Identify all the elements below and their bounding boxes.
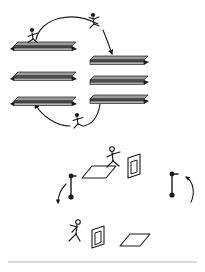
right-bar-2	[90, 76, 149, 85]
right-bar-3	[90, 95, 149, 104]
left-bar-3	[10, 97, 77, 106]
figure-jumper-upper-slab	[107, 147, 120, 167]
figure-runner-lower-slab	[69, 220, 80, 241]
left-bar-2	[10, 72, 77, 81]
pin-marker-left	[68, 174, 76, 200]
flat-slab-lower-right	[120, 234, 150, 246]
right-bar-stack	[90, 56, 149, 104]
figure-jumper-bottom-arc	[73, 113, 83, 128]
scene-bottom-slab-marker-cycle	[58, 147, 193, 248]
flat-slab-upper-left	[82, 166, 116, 178]
upright-panel-upper-right	[128, 154, 140, 178]
upright-panel-lower-middle	[92, 226, 104, 248]
arrow-curve-right-up	[186, 177, 193, 202]
pin-marker-right	[169, 172, 178, 198]
scene-top-bar-stack-cycle	[10, 13, 149, 128]
arc-right-to-left-bottom	[35, 104, 100, 126]
diagram-svg	[0, 0, 205, 272]
right-bar-1	[90, 56, 149, 65]
arrow-curve-left-down	[58, 184, 66, 203]
left-bar-stack	[10, 42, 77, 106]
left-bar-1	[10, 42, 77, 51]
figure-runner-on-left-bar	[28, 28, 38, 43]
diagram-canvas: Cyclic jumping diagram with stacked bars…	[0, 0, 205, 272]
